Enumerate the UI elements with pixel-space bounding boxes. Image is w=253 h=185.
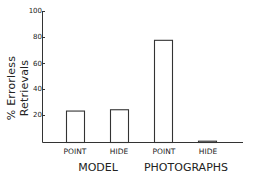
group-label-model: MODEL bbox=[53, 161, 143, 174]
bar-photographs-point bbox=[155, 40, 173, 142]
bar-label-photo-hide: HIDE bbox=[188, 147, 228, 156]
bar-model-hide bbox=[111, 110, 129, 143]
bar-label-model-point: POINT bbox=[55, 147, 95, 156]
bar-label-model-hide: HIDE bbox=[99, 147, 139, 156]
bar-photographs-hide bbox=[199, 141, 217, 142]
bar-chart: % Errorless Retrievals 100 80 60 40 20 P… bbox=[0, 0, 253, 185]
group-label-photographs: PHOTOGRAPHS bbox=[141, 161, 231, 174]
bar-model-point bbox=[67, 111, 85, 142]
bar-label-photo-point: POINT bbox=[144, 147, 184, 156]
chart-plot-area bbox=[0, 0, 253, 185]
